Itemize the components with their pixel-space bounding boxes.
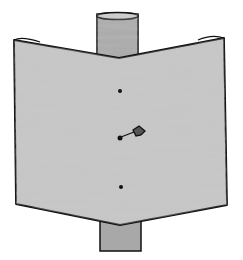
lower-hole (119, 185, 123, 189)
pinned-paper-illustration (0, 0, 243, 260)
upper-hole (118, 89, 122, 93)
paper-sheet (14, 36, 227, 225)
post-top (97, 13, 138, 61)
